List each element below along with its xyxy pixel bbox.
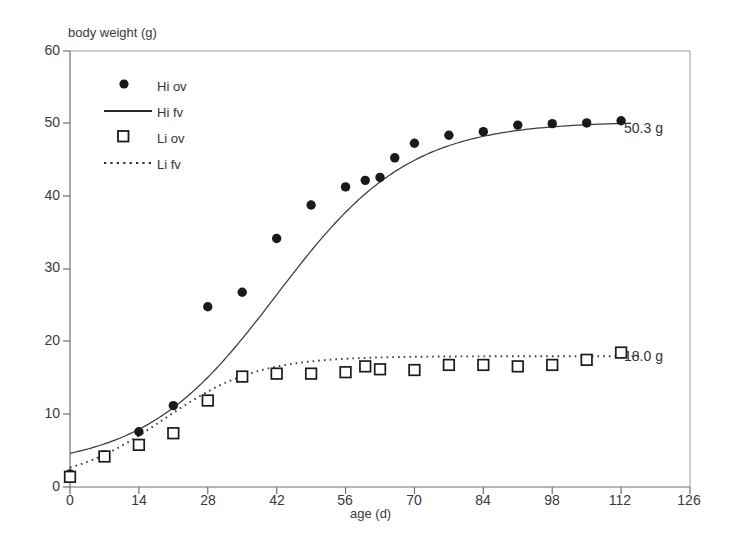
data-point-li-ov [271,368,282,379]
series-points-li-ov [65,347,627,482]
series-curve-li-fv [70,356,641,467]
legend-marker-filled-circle [119,79,128,88]
y-axis-ticks [63,51,70,487]
data-point-li-ov [444,360,455,371]
data-point-hi-ov [238,288,247,297]
data-point-li-ov [237,371,248,382]
data-point-hi-ov [375,173,384,182]
data-point-li-ov [202,395,213,406]
plot-area [0,0,735,550]
data-point-hi-ov [582,118,591,127]
fitted-curve-hi [70,123,631,453]
data-point-li-ov [134,440,145,451]
data-point-li-ov [99,451,110,462]
data-point-hi-ov [306,200,315,209]
data-point-hi-ov [341,182,350,191]
data-point-hi-ov [479,127,488,136]
data-point-hi-ov [410,139,419,148]
legend-markers [104,79,152,163]
data-point-li-ov [340,367,351,378]
data-point-hi-ov [134,427,143,436]
data-point-li-ov [512,361,523,372]
data-point-hi-ov [513,120,522,129]
series-curve-hi-fv [70,123,631,453]
chart-figure: body weight (g) age (d) 60 50 40 30 20 1… [0,0,735,550]
data-point-li-ov [409,365,420,376]
data-point-li-ov [168,428,179,439]
data-point-li-ov [478,360,489,371]
data-point-li-ov [581,355,592,366]
data-point-hi-ov [272,234,281,243]
data-point-li-ov [375,364,386,375]
axis-frame [70,51,690,487]
data-point-li-ov [616,347,627,358]
legend-marker-open-square [118,131,129,142]
data-point-li-ov [360,361,371,372]
data-point-hi-ov [548,119,557,128]
data-point-li-ov [65,472,76,483]
data-point-li-ov [306,368,317,379]
data-point-hi-ov [203,302,212,311]
data-point-li-ov [547,360,558,371]
fitted-curve-li [70,356,641,467]
data-point-hi-ov [361,176,370,185]
data-point-hi-ov [444,131,453,140]
data-point-hi-ov [616,116,625,125]
x-axis-ticks [70,487,690,494]
data-point-hi-ov [390,153,399,162]
data-point-hi-ov [169,401,178,410]
